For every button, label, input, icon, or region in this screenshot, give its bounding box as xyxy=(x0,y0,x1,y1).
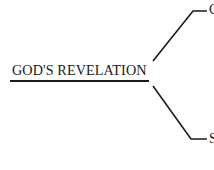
lower-branch-line xyxy=(153,86,207,139)
lower-branch-label: S xyxy=(209,131,214,147)
branch-connectors xyxy=(0,0,214,170)
upper-branch-line xyxy=(153,11,207,61)
upper-branch-label: G xyxy=(209,2,214,18)
